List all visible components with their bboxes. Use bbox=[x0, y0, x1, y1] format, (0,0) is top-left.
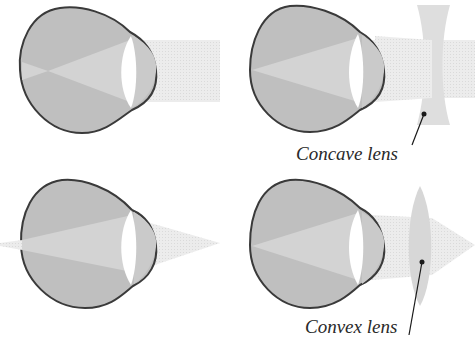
light-cone-external bbox=[432, 218, 475, 275]
panel-hyperopia-corrected bbox=[250, 180, 475, 335]
concave-lens-label: Concave lens bbox=[296, 143, 398, 165]
light-cone-behind-retina bbox=[0, 240, 22, 250]
convex-lens-label: Convex lens bbox=[305, 316, 397, 338]
panel-myopia-uncorrected bbox=[20, 7, 220, 133]
panel-hyperopia-uncorrected bbox=[0, 180, 220, 308]
leader-line bbox=[412, 114, 424, 145]
convex-lens bbox=[409, 186, 432, 306]
eye-correction-diagram bbox=[0, 0, 475, 357]
cornea bbox=[134, 212, 156, 284]
panel-myopia-corrected bbox=[250, 5, 475, 145]
